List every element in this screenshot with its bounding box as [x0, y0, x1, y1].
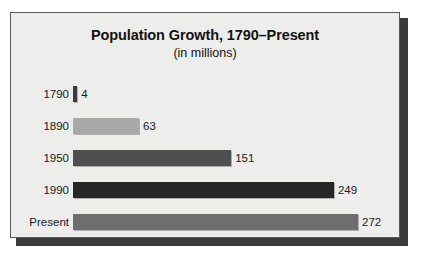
category-label: 1790 — [11, 83, 69, 105]
bar-row: 1950151 — [11, 147, 401, 169]
bar-track: 63 — [73, 118, 401, 134]
bar-value-label: 151 — [231, 150, 254, 166]
bar — [73, 214, 358, 230]
plot-area: 1790418906319501511990249Present272 — [11, 83, 401, 233]
bar-track: 151 — [73, 150, 401, 166]
chart-subtitle: (in millions) — [11, 45, 399, 61]
bar-track: 249 — [73, 182, 401, 198]
bar-row: 1990249 — [11, 179, 401, 201]
category-label: 1990 — [11, 179, 69, 201]
category-label: 1890 — [11, 115, 69, 137]
bar-value-label: 249 — [334, 182, 357, 198]
bar-track: 4 — [73, 86, 401, 102]
chart-figure: Population Growth, 1790–Present (in mill… — [0, 0, 423, 265]
bar — [73, 150, 231, 166]
bar-row: 189063 — [11, 115, 401, 137]
category-label: Present — [11, 211, 69, 233]
bar-track: 272 — [73, 214, 401, 230]
category-label: 1950 — [11, 147, 69, 169]
bar-value-label: 272 — [358, 214, 381, 230]
chart-title: Population Growth, 1790–Present — [11, 27, 399, 44]
bar-row: Present272 — [11, 211, 401, 233]
bar-row: 17904 — [11, 83, 401, 105]
bar-value-label: 63 — [139, 118, 156, 134]
bar — [73, 182, 334, 198]
bar — [73, 118, 139, 134]
chart-title-block: Population Growth, 1790–Present (in mill… — [11, 27, 399, 61]
bar-value-label: 4 — [77, 86, 87, 102]
chart-panel: Population Growth, 1790–Present (in mill… — [10, 12, 400, 238]
